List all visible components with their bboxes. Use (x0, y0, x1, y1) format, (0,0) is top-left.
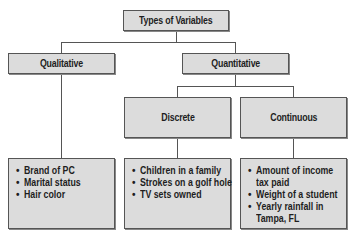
connector-discrete-to-examples (177, 137, 178, 158)
node-quantitative-label: Quantitative (211, 58, 260, 69)
node-types-of-variables: Types of Variables (123, 10, 229, 31)
list-item: •TV sets owned (132, 189, 226, 201)
list-item: •Marital status (16, 177, 110, 189)
examples-continuous: •Amount of income tax paid •Weight of a … (240, 158, 347, 229)
list-item: •Brand of PC (16, 165, 110, 177)
list-item: •Yearly rainfall in (248, 201, 342, 213)
bullet-icon: • (132, 165, 136, 177)
examples-discrete: •Children in a family •Strokes on a golf… (124, 158, 231, 229)
connector-level1-horizontal (61, 42, 236, 43)
bullet-icon: • (248, 189, 252, 201)
list-item: •Weight of a student (248, 189, 342, 201)
list-item-continuation: Tampa, FL (248, 213, 342, 225)
node-continuous: Continuous (240, 97, 347, 138)
connector-continuous-to-examples (293, 137, 294, 158)
list-item: •Children in a family (132, 165, 226, 177)
list-item-continuation: tax paid (248, 177, 342, 189)
connector-qualitative-to-examples (61, 73, 62, 158)
bullet-icon: • (16, 165, 20, 177)
bullet-icon: • (132, 177, 136, 189)
examples-qualitative: •Brand of PC •Marital status •Hair color (8, 158, 115, 229)
connector-to-discrete (177, 86, 178, 97)
connector-to-continuous (293, 86, 294, 97)
bullet-icon: • (248, 165, 252, 177)
node-discrete: Discrete (124, 97, 231, 138)
bullet-icon: • (248, 201, 252, 213)
connector-level2-horizontal (177, 86, 294, 87)
node-qualitative: Qualitative (8, 53, 115, 74)
list-item: •Hair color (16, 189, 110, 201)
bullet-icon: • (16, 177, 20, 189)
connector-quantitative-down (235, 73, 236, 87)
node-qualitative-label: Qualitative (40, 58, 83, 69)
node-quantitative: Quantitative (182, 53, 289, 74)
node-title-label: Types of Variables (139, 15, 212, 26)
connector-to-quantitative (235, 42, 236, 53)
node-continuous-label: Continuous (270, 112, 317, 123)
bullet-icon: • (16, 189, 20, 201)
connector-to-qualitative (61, 42, 62, 53)
bullet-icon: • (132, 189, 136, 201)
list-item: •Amount of income (248, 165, 342, 177)
list-item: •Strokes on a golf hole (132, 177, 226, 189)
node-discrete-label: Discrete (161, 112, 194, 123)
